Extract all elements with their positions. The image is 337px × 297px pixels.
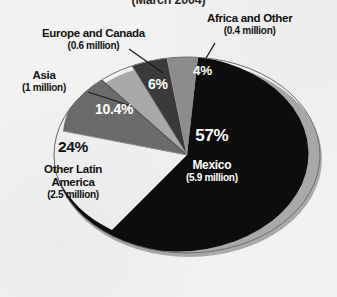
label-asia-name: Asia [32, 69, 55, 81]
pct-label-other-latin-america: 24% [44, 138, 102, 156]
label-africa-name: Africa and Other [207, 12, 292, 24]
pct-label-asia: 10.4% [95, 101, 133, 117]
label-africa-and-other: Africa and Other (0.4 million) [207, 12, 292, 36]
label-asia-value: (1 million) [22, 82, 66, 93]
label-mexico-name: Mexico [186, 158, 238, 172]
pct-label-europe-canada: 6% [148, 76, 168, 92]
label-other-latin-value: (2.5 million) [44, 189, 102, 200]
label-europe-value: (0.6 million) [42, 40, 145, 51]
label-europe-name: Europe and Canada [42, 27, 145, 39]
label-europe-and-canada: Europe and Canada (0.6 million) [42, 27, 145, 51]
pct-label-mexico: 57% [186, 126, 238, 146]
label-asia: Asia (1 million) [22, 69, 66, 93]
label-other-latin-name-line1: Other Latin [44, 163, 102, 176]
chart-plot-area: Europe and Canada (0.6 million) Asia (1 … [0, 0, 337, 297]
label-other-latin-america: 24% Other Latin America (2.5 million) [44, 138, 102, 200]
label-mexico-value: (5.9 million) [186, 172, 238, 183]
pie-chart-figure: (March 2004) [0, 0, 337, 297]
label-africa-value: (0.4 million) [207, 25, 292, 36]
pct-label-africa-other: 4% [193, 63, 212, 78]
label-mexico: 57% Mexico (5.9 million) [186, 126, 238, 183]
label-other-latin-name-line2: America [44, 176, 102, 189]
